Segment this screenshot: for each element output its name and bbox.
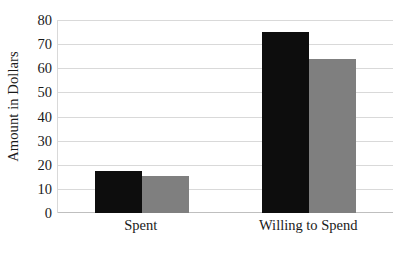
bar (142, 176, 189, 213)
x-axis-category-label: Willing to Spend (225, 218, 393, 234)
bar (95, 171, 142, 213)
y-axis-tick-label: 60 (11, 61, 57, 76)
y-axis-tick-label: 40 (11, 109, 57, 124)
y-axis-tick-label: 50 (11, 85, 57, 100)
gridline (58, 20, 393, 21)
y-axis-tick-label: 10 (11, 182, 57, 197)
y-axis-tick-label: 70 (11, 37, 57, 52)
y-axis-tick-label: 30 (11, 133, 57, 148)
bar-chart: Amount in Dollars 01020304050607080 Spen… (0, 0, 399, 253)
x-axis-category-label: Spent (57, 218, 225, 234)
y-axis-tick-label: 20 (11, 158, 57, 173)
y-axis-tick-labels: 01020304050607080 (0, 0, 57, 253)
bar (309, 59, 356, 213)
y-axis-tick-label: 80 (11, 13, 57, 28)
x-axis-category-labels: SpentWilling to Spend (57, 218, 392, 248)
gridline (58, 44, 393, 45)
plot-area (57, 20, 392, 213)
bar (262, 32, 309, 213)
y-axis-tick-label: 0 (11, 206, 57, 221)
